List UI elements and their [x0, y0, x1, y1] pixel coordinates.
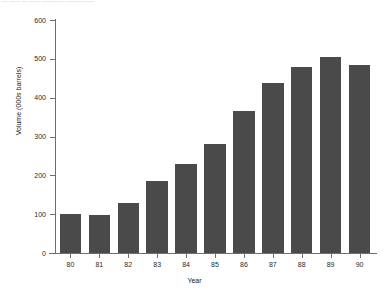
x-axis-tick	[157, 253, 158, 258]
x-axis-tick	[302, 253, 303, 258]
y-axis-tick-label: 200	[6, 172, 46, 179]
bar-chart-figure: Volume (000s barrels) Year 0100200300400…	[0, 0, 389, 299]
x-axis-tick	[70, 253, 71, 258]
bar-83	[146, 181, 167, 253]
bar-87	[262, 83, 283, 253]
x-axis-tick	[331, 253, 332, 258]
plot-area	[56, 20, 374, 253]
x-axis-tick	[244, 253, 245, 258]
x-axis-title: Year	[0, 277, 389, 285]
x-axis-tick	[215, 253, 216, 258]
bar-85	[204, 144, 225, 254]
x-axis-tick-label: 82	[114, 261, 142, 269]
y-axis-tick-label: 100	[6, 211, 46, 218]
x-axis-line	[49, 253, 377, 254]
x-axis-tick-label: 83	[143, 261, 171, 269]
y-axis-tick-label: 500	[6, 55, 46, 62]
x-axis-tick	[186, 253, 187, 258]
x-axis-tick-label: 81	[85, 261, 113, 269]
x-axis-tick-label: 86	[230, 261, 258, 269]
bar-82	[118, 203, 139, 253]
x-axis-tick	[99, 253, 100, 258]
y-axis-tick-label: 400	[6, 94, 46, 101]
bar-84	[175, 164, 196, 253]
x-axis-tick-label: 85	[201, 261, 229, 269]
bar-88	[291, 67, 312, 253]
x-axis-tick-label: 90	[346, 261, 374, 269]
x-axis-tick	[128, 253, 129, 258]
x-axis-tick-label: 87	[259, 261, 287, 269]
y-axis-tick-label: 0	[6, 250, 46, 257]
bar-86	[233, 111, 254, 253]
bar-90	[349, 65, 370, 253]
x-axis-tick-label: 89	[317, 261, 345, 269]
x-axis-tick-label: 84	[172, 261, 200, 269]
bar-89	[320, 57, 341, 253]
x-axis-tick-label: 80	[56, 261, 84, 269]
bar-80	[60, 214, 81, 253]
x-axis-tick	[360, 253, 361, 258]
x-axis-tick-label: 88	[288, 261, 316, 269]
x-axis-tick	[273, 253, 274, 258]
y-axis-tick	[50, 253, 56, 254]
bar-81	[89, 215, 110, 253]
y-axis-tick-label: 300	[6, 133, 46, 140]
y-axis-tick-label: 600	[6, 17, 46, 24]
